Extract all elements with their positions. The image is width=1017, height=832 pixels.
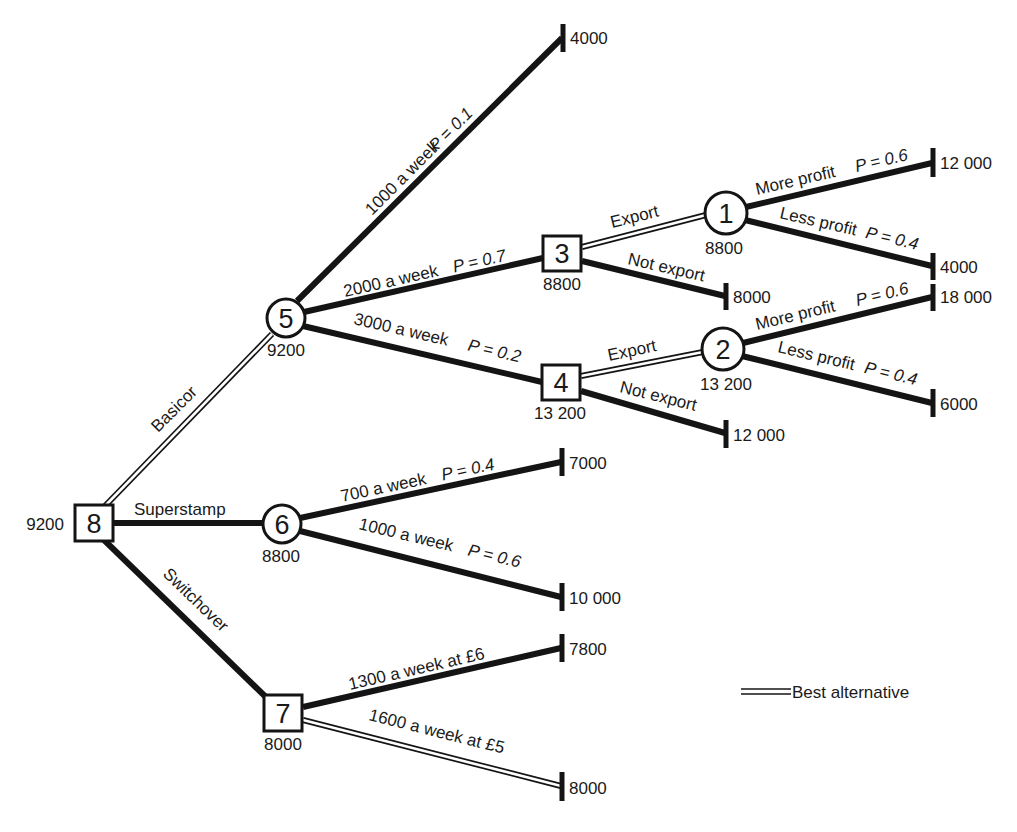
- terminal-value-n1-less: 4000: [940, 258, 978, 277]
- node-6-value: 8800: [262, 547, 300, 566]
- terminal-value-n7-1300: 7800: [569, 640, 607, 659]
- node-8-number: 8: [86, 509, 101, 539]
- prob-n2-less: P = 0.4: [863, 358, 920, 389]
- prob-n5-3000: P = 0.2: [466, 336, 523, 367]
- node-2: 2 13 200: [700, 328, 752, 394]
- terminal-value-n4-notexport: 12 000: [733, 426, 785, 445]
- label-superstamp: Superstamp: [134, 500, 226, 519]
- node-8: 8 9200: [26, 505, 113, 541]
- label-n4-notexport: Not export: [618, 377, 699, 414]
- node-4-number: 4: [553, 368, 568, 398]
- node-7: 7 8000: [264, 695, 302, 754]
- node-4-value: 13 200: [534, 404, 586, 423]
- edge-basicor: [103, 334, 272, 508]
- terminal-value-n2-more: 18 000: [940, 288, 992, 307]
- label-n7-1600: 1600 a week at £5: [367, 705, 506, 757]
- terminal-value-n1-more: 12 000: [940, 154, 992, 173]
- node-7-value: 8000: [264, 735, 302, 754]
- legend-label: Best alternative: [792, 683, 909, 702]
- terminal-value-n6-700: 7000: [569, 454, 607, 473]
- best-alternative-symbol: [741, 689, 791, 694]
- terminal-value-n3-notexport: 8000: [733, 288, 771, 307]
- terminal-value-n7-1600: 8000: [569, 779, 607, 798]
- node-5-value: 9200: [267, 341, 305, 360]
- node-3: 3 8800: [543, 236, 581, 294]
- node-7-number: 7: [275, 699, 290, 729]
- node-1: 1 8800: [705, 192, 747, 258]
- terminal-value-n2-less: 6000: [940, 395, 978, 414]
- node-6-number: 6: [274, 510, 289, 540]
- node-5: 5 9200: [267, 299, 305, 360]
- terminal-value-n6-1000: 10 000: [569, 589, 621, 608]
- node-6: 6 8800: [262, 505, 301, 566]
- node-2-number: 2: [715, 335, 730, 365]
- edge-switchover: [104, 540, 272, 703]
- node-1-value: 8800: [705, 239, 743, 258]
- terminal-value-n5-1000: 4000: [570, 29, 608, 48]
- label-basicor: Basicor: [147, 382, 201, 436]
- node-4: 4 13 200: [534, 365, 586, 423]
- node-5-number: 5: [278, 304, 293, 334]
- legend: Best alternative: [741, 683, 909, 702]
- prob-n6-1000: P = 0.6: [466, 541, 523, 572]
- node-1-number: 1: [718, 199, 733, 229]
- decision-tree-diagram: 8 9200 5 9200 6 8800 7 8000 3 8800 4 13 …: [0, 0, 1017, 832]
- node-2-value: 13 200: [700, 375, 752, 394]
- node-3-number: 3: [554, 239, 569, 269]
- node-8-value: 9200: [26, 515, 64, 534]
- node-3-value: 8800: [543, 275, 581, 294]
